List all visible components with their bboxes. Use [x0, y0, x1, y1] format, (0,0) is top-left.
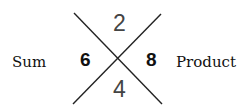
sum-label: Sum — [12, 55, 46, 70]
top-value: 2 — [113, 12, 126, 35]
x-puzzle-diagram: Sum 6 2 4 8 Product — [0, 0, 248, 112]
right-value: 8 — [146, 50, 157, 69]
left-value: 6 — [80, 50, 91, 69]
bottom-value: 4 — [113, 78, 126, 101]
product-label: Product — [176, 55, 236, 70]
